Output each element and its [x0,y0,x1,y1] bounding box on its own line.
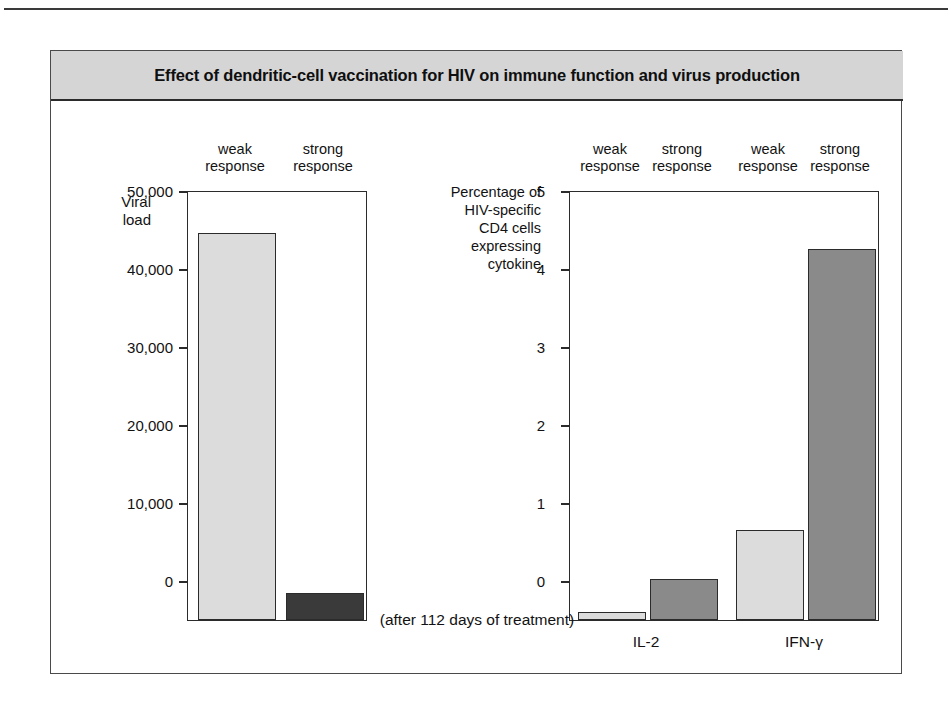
chart-panel-cytokine: Percentage of HIV-specific CD4 cells exp… [431,101,903,675]
right-category-label-il2: IL-2 [571,633,721,651]
right-axis-title-line1: Percentage of [431,183,541,201]
right-ytick-label-4: 4 [527,261,545,278]
right-col-header-ifng-strong-line2: response [803,158,877,175]
right-col-header-ifng-weak-line2: response [731,158,805,175]
right-ytick-label-5: 5 [527,183,545,200]
right-category-label-ifng: IFN-γ [729,633,879,651]
left-ytick-label-30000: 30,000 [97,339,173,356]
right-ytick-label-0: 0 [527,573,545,590]
right-col-header-il2-weak-line1: weak [573,141,647,158]
right-ytick-label-2: 2 [527,417,545,434]
left-col-header-weak-line2: response [193,158,277,175]
right-bar-ifng-strong [808,249,876,620]
figure-title: Effect of dendritic-cell vaccination for… [154,66,800,85]
left-col-header-strong-line1: strong [281,141,365,158]
right-col-header-ifng-weak-line1: weak [731,141,805,158]
right-col-header-il2-strong-line1: strong [645,141,719,158]
right-bar-ifng-weak [736,530,804,620]
left-col-header-weak-line1: weak [193,141,277,158]
left-bars-group [188,192,366,620]
right-col-header-il2-weak-line2: response [573,158,647,175]
figure-title-banner: Effect of dendritic-cell vaccination for… [51,51,903,101]
figure-footnote: (after 112 days of treatment) [51,611,903,629]
right-ytick-label-3: 3 [527,339,545,356]
left-ytick-label-40000: 40,000 [97,261,173,278]
right-plot-frame [569,191,879,621]
left-ytick-label-50000: 50,000 [97,183,173,200]
left-ytick-label-20000: 20,000 [97,417,173,434]
left-bar-weak-response [198,233,276,620]
left-ytick-label-0: 0 [97,573,173,590]
right-axis-title-line5: cytokine [431,255,541,273]
right-axis-title-line4: expressing [431,237,541,255]
left-axis-title-line2: load [61,211,151,229]
left-ytick-label-10000: 10,000 [97,495,173,512]
chart-panel-viral-load: Viral load 50,000 40,000 30,000 20,000 1… [51,101,431,675]
right-col-header-ifng-strong-line1: strong [803,141,877,158]
figure-container: Effect of dendritic-cell vaccination for… [50,50,902,674]
right-axis-title-line2: HIV-specific [431,201,541,219]
right-ytick-label-1: 1 [527,495,545,512]
right-col-header-il2-strong-line2: response [645,158,719,175]
left-col-header-strong-line2: response [281,158,365,175]
page-top-rule [4,8,948,10]
left-plot-frame [187,191,367,621]
right-axis-title-line3: CD4 cells [431,219,541,237]
